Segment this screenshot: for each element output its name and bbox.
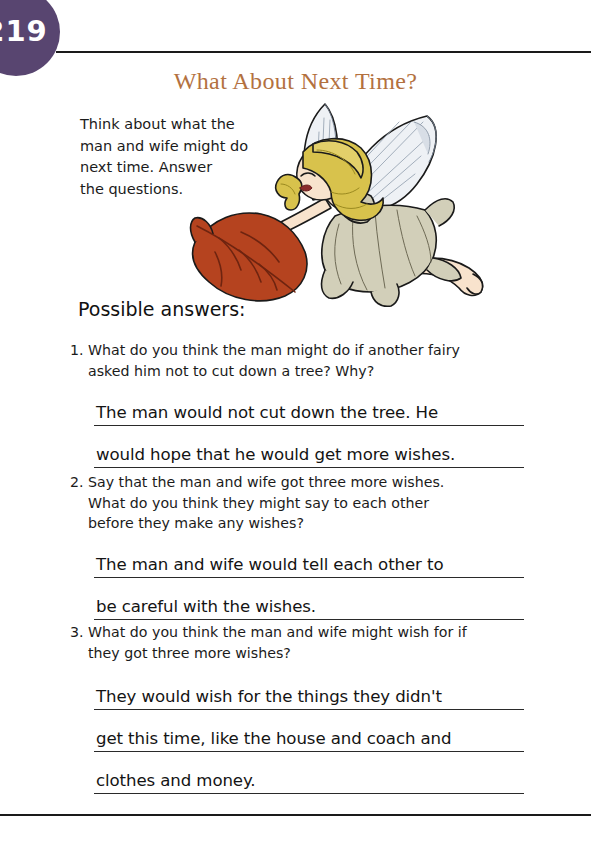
answer-text: be careful with the wishes. [96, 597, 316, 616]
answer-text: They would wish for the things they didn… [96, 687, 442, 706]
answer-block-2: The man and wife would tell each other t… [94, 540, 524, 624]
answer-block-1: The man would not cut down the tree. He … [94, 388, 524, 472]
answer-block-3: They would wish for the things they didn… [94, 672, 524, 798]
footer-divider [0, 814, 591, 816]
question-line: asked him not to cut down a tree? Why? [88, 361, 460, 382]
question-text: Say that the man and wife got three more… [88, 472, 444, 534]
page-title: What About Next Time? [0, 68, 591, 95]
answer-line[interactable]: The man and wife would tell each other t… [94, 540, 524, 578]
answer-text: clothes and money. [96, 771, 256, 790]
question-line: What do you think the man might do if an… [88, 340, 460, 361]
answer-line[interactable]: be careful with the wishes. [94, 582, 524, 620]
answer-text: would hope that he would get more wishes… [96, 445, 455, 464]
question-block-2: 2. Say that the man and wife got three m… [70, 472, 540, 534]
question-text: What do you think the man and wife might… [88, 622, 467, 663]
question-number: 3. [70, 622, 88, 663]
question-line: they got three more wishes? [88, 643, 467, 664]
question-number: 1. [70, 340, 88, 381]
page-number-badge: 219 [0, 0, 60, 76]
answer-line[interactable]: would hope that he would get more wishes… [94, 430, 524, 468]
fairy-illustration [185, 92, 505, 307]
answer-text: The man would not cut down the tree. He [96, 403, 438, 422]
question-line: before they make any wishes? [88, 513, 444, 534]
answer-text: get this time, like the house and coach … [96, 729, 451, 748]
answer-text: The man and wife would tell each other t… [96, 555, 443, 574]
page-number-label: 219 [0, 8, 60, 54]
answer-line[interactable]: clothes and money. [94, 756, 524, 794]
answer-line[interactable]: get this time, like the house and coach … [94, 714, 524, 752]
question-block-1: 1. What do you think the man might do if… [70, 340, 540, 381]
question-line: Say that the man and wife got three more… [88, 472, 444, 493]
question-number: 2. [70, 472, 88, 534]
header-divider [56, 51, 591, 53]
answer-line[interactable]: They would wish for the things they didn… [94, 672, 524, 710]
question-line: What do you think the man and wife might… [88, 622, 467, 643]
question-text: What do you think the man might do if an… [88, 340, 460, 381]
answer-line[interactable]: The man would not cut down the tree. He [94, 388, 524, 426]
question-line: What do you think they might say to each… [88, 493, 444, 514]
question-block-3: 3. What do you think the man and wife mi… [70, 622, 540, 663]
